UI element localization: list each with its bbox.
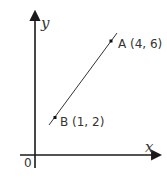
point-a-label: A (4, 6) [118, 37, 162, 51]
coordinate-diagram: y x 0 A (4, 6) B (1, 2) [0, 0, 167, 186]
point-b-label: B (1, 2) [60, 115, 104, 129]
point-a-marker [110, 40, 113, 43]
y-axis-label: y [40, 14, 50, 32]
origin-label: 0 [24, 156, 32, 170]
segment-ab [49, 33, 117, 125]
point-b-marker [54, 116, 57, 119]
x-axis-label: x [145, 138, 154, 156]
